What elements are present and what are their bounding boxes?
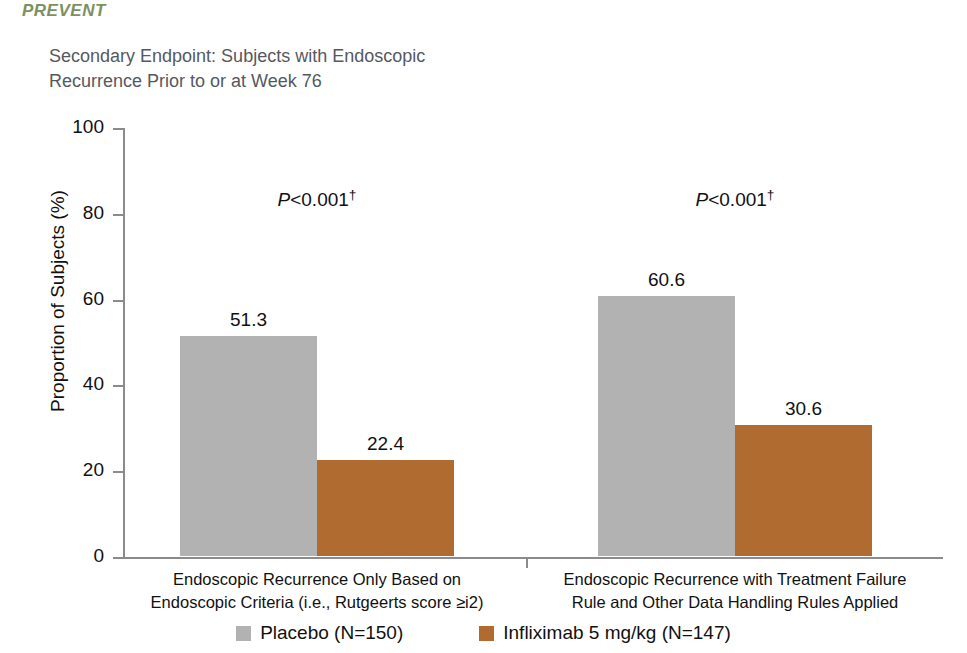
x-tick-group-separator — [526, 557, 528, 568]
legend-swatch-infliximab-icon — [479, 626, 494, 641]
y-tick-40: 40 — [113, 385, 124, 387]
legend-item-placebo: Placebo (N=150) — [236, 622, 403, 644]
chart-subtitle: Secondary Endpoint: Subjects with Endosc… — [49, 44, 519, 94]
bar-value-infliximab-group1: 22.4 — [367, 433, 404, 455]
plot-area: 0 20 40 60 80 100 51.3 22.4 60.6 — [123, 128, 943, 557]
legend-label-placebo: Placebo (N=150) — [260, 622, 403, 644]
legend: Placebo (N=150) Infliximab 5 mg/kg (N=14… — [0, 622, 967, 644]
study-name-label: PREVENT — [22, 1, 106, 21]
category-label-2: Endoscopic Recurrence with Treatment Fai… — [545, 568, 925, 614]
y-tick-60: 60 — [113, 300, 124, 302]
y-tick-20: 20 — [113, 471, 124, 473]
pvalue-annotation-group2: P<0.001† — [696, 189, 775, 211]
pvalue-rest-1: <0.001 — [290, 189, 349, 210]
legend-swatch-placebo-icon — [236, 626, 251, 641]
bar-placebo-group1: 51.3 — [180, 336, 317, 556]
bar-value-infliximab-group2: 30.6 — [785, 398, 822, 420]
bar-infliximab-group2: 30.6 — [735, 425, 872, 556]
y-tick-80: 80 — [113, 214, 124, 216]
y-axis-line — [123, 128, 125, 558]
pvalue-dagger-1: † — [349, 187, 357, 202]
pvalue-rest-2: <0.001 — [708, 189, 767, 210]
legend-item-infliximab: Infliximab 5 mg/kg (N=147) — [479, 622, 731, 644]
pvalue-dagger-2: † — [767, 187, 775, 202]
pvalue-annotation-group1: P<0.001† — [278, 189, 357, 211]
y-tick-label-80: 80 — [44, 202, 104, 224]
bar-value-placebo-group1: 51.3 — [230, 309, 267, 331]
y-tick-100: 100 — [113, 128, 124, 130]
bar-value-placebo-group2: 60.6 — [648, 269, 685, 291]
y-tick-0: 0 — [113, 557, 124, 559]
pvalue-p-italic-2: P — [696, 189, 709, 210]
y-tick-label-40: 40 — [44, 373, 104, 395]
legend-label-infliximab: Infliximab 5 mg/kg (N=147) — [503, 622, 731, 644]
y-tick-label-60: 60 — [44, 288, 104, 310]
x-axis-line — [123, 557, 943, 559]
bar-placebo-group2: 60.6 — [598, 296, 735, 556]
pvalue-p-italic-1: P — [278, 189, 291, 210]
y-tick-label-0: 0 — [44, 545, 104, 567]
y-tick-label-20: 20 — [44, 459, 104, 481]
bar-infliximab-group1: 22.4 — [317, 460, 454, 556]
category-label-1: Endoscopic Recurrence Only Based on Endo… — [142, 568, 492, 614]
figure-root: PREVENT Secondary Endpoint: Subjects wit… — [0, 0, 967, 653]
y-tick-label-100: 100 — [44, 116, 104, 138]
